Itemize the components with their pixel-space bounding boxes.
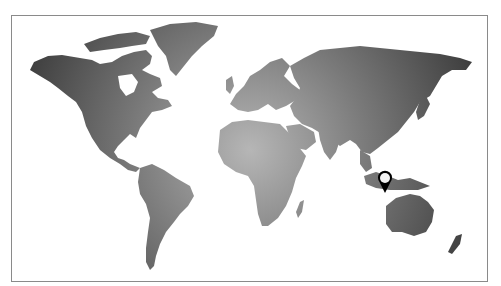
arctic-islands [84, 32, 150, 52]
south-america [138, 164, 194, 270]
madagascar [296, 200, 304, 218]
new-zealand [448, 234, 462, 254]
asia [290, 46, 472, 154]
north-america [30, 50, 172, 172]
map-pin-icon[interactable] [376, 170, 394, 194]
greenland [150, 22, 218, 76]
europe [230, 58, 300, 112]
australia [386, 194, 434, 236]
great-britain [226, 76, 234, 94]
world-map[interactable] [0, 0, 501, 286]
indonesia [364, 172, 430, 190]
mediterranean-sea [238, 112, 282, 120]
